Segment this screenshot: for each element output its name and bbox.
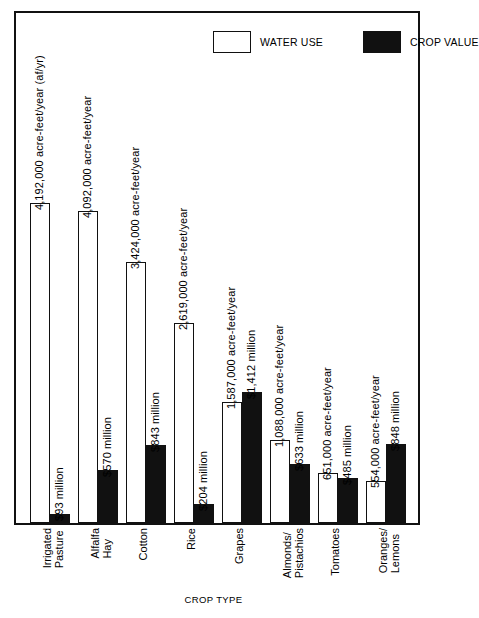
bar-label-water-use: 3,424,000 acre-feet/year [130,147,141,269]
category-label: Oranges/Lemons [378,528,401,573]
category-label-line: Irrigated [42,528,54,568]
bar-water-use [78,211,98,523]
bar-group: 3,424,000 acre-feet/year$843 million [126,13,166,523]
bar-label-crop-value: $848 million [390,391,401,451]
category-label-line: Rice [186,528,198,550]
bar-crop-value [98,470,118,523]
bar-label-crop-value: $93 million [54,467,65,521]
category-label-line: Tomatoes [330,528,342,576]
bar-label-water-use: 1,088,000 acre-feet/year [274,325,285,447]
category-label-line: Almonds/ [282,528,294,578]
bar-water-use [174,323,194,523]
bar-group: 2,619,000 acre-feet/year$204 million [174,13,214,523]
bar-crop-value [386,444,406,523]
bar-label-crop-value: $1,412 million [246,330,257,399]
bar-water-use [318,473,338,523]
bar-water-use [222,402,242,523]
category-label-line: Cotton [138,528,150,560]
bar-group: 4,092,000 acre-feet/year$570 million [78,13,118,523]
bar-water-use [126,262,146,523]
bar-crop-value [242,392,262,523]
category-label-line: Alfalfa [90,528,102,559]
bar-water-use [30,203,50,523]
bar-label-crop-value: $204 million [198,451,209,511]
bar-label-crop-value: $570 million [102,417,113,477]
bar-label-water-use: 4,092,000 acre-feet/year [82,96,93,218]
bar-crop-value [290,464,310,523]
category-axis-labels: IrrigatedPastureAlfalfaHayCottonRiceGrap… [16,528,418,604]
bar-label-water-use: 554,000 acre-feet/year [370,375,381,488]
bar-group: 651,000 acre-feet/year$485 million [318,13,358,523]
bar-group: 1,088,000 acre-feet/year$633 million [270,13,310,523]
category-label-line: Hay [102,528,114,559]
category-label: Tomatoes [330,528,342,576]
category-label: Almonds/Pistachios [282,528,305,578]
bar-label-water-use: 651,000 acre-feet/year [322,367,333,480]
bar-label-water-use: 1,587,000 acre-feet/year [226,287,237,409]
category-label: Rice [186,528,198,550]
category-label: Grapes [234,528,246,564]
bar-group: 4,192,000 acre-feet/year (af/yr)$93 mill… [30,13,70,523]
bar-crop-value [146,445,166,523]
bar-label-crop-value: $485 million [342,425,353,485]
category-label-line: Pistachios [294,528,306,578]
bar-label-water-use: 4,192,000 acre-feet/year (af/yr) [34,55,45,210]
category-label: AlfalfaHay [90,528,113,559]
legend-label-crop-value: CROP VALUE [410,36,479,48]
bar-label-crop-value: $843 million [150,392,161,452]
bar-label-water-use: 2,619,000 acre-feet/year [178,208,189,330]
bar-label-crop-value: $633 million [294,411,305,471]
bar-water-use [270,440,290,523]
category-label-line: Oranges/ [378,528,390,573]
category-label-line: Pasture [54,528,66,568]
bar-group: 1,587,000 acre-feet/year$1,412 million [222,13,262,523]
category-label: Cotton [138,528,150,560]
category-label-line: Lemons [390,528,402,573]
bar-group: 554,000 acre-feet/year$848 million [366,13,406,523]
category-label-line: Grapes [234,528,246,564]
category-label: IrrigatedPasture [42,528,65,568]
plot-area: 4,192,000 acre-feet/year (af/yr)$93 mill… [16,13,418,523]
x-axis-title-text: CROP TYPE [184,594,242,605]
x-axis-title: CROP TYPE [0,594,437,605]
